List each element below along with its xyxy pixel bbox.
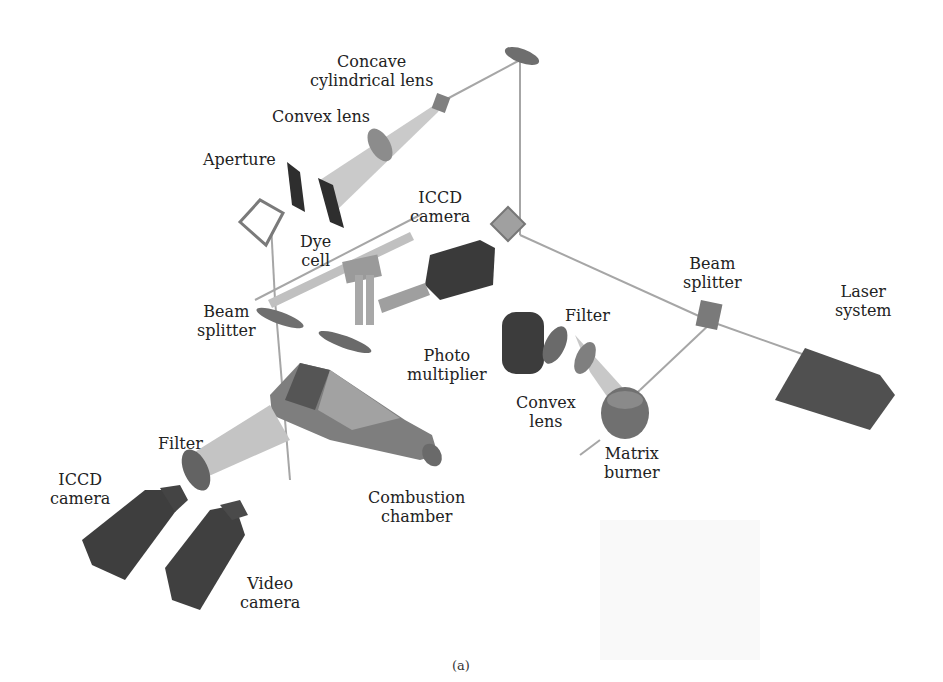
label-icdd-camera-left: ICCD camera xyxy=(50,470,110,508)
label-beam-splitter-right: Beam splitter xyxy=(683,254,742,292)
icdd-camera-top-icon xyxy=(378,240,495,313)
matrix-burner-icon xyxy=(601,387,649,439)
turning-mirror-icon xyxy=(240,200,283,245)
experimental-setup-diagram: Concave cylindrical lens Convex lens Ape… xyxy=(0,0,943,682)
label-convex-lens-top: Convex lens xyxy=(272,107,370,126)
photo-multiplier-icon xyxy=(502,312,544,374)
label-beam-splitter-left: Beam splitter xyxy=(197,302,256,340)
video-camera-icon xyxy=(165,500,248,610)
steering-mirror-icon xyxy=(503,43,542,68)
label-dye-cell: Dye cell xyxy=(300,232,331,270)
laser-system-icon xyxy=(775,348,895,430)
label-icdd-camera-top: ICCD camera xyxy=(410,188,470,226)
label-filter-right: Filter xyxy=(565,306,610,325)
figure-caption: (a) xyxy=(452,658,470,673)
label-filter-left: Filter xyxy=(158,434,203,453)
beam-splitter-right-icon xyxy=(696,300,723,330)
label-photo-multiplier: Photo multiplier xyxy=(407,346,487,384)
label-concave-cylindrical-lens: Concave cylindrical lens xyxy=(310,52,433,90)
label-convex-lens-right: Convex lens xyxy=(516,393,576,431)
label-matrix-burner: Matrix burner xyxy=(604,444,660,482)
beam-splitter-left-icon xyxy=(254,304,305,332)
label-laser-system: Laser system xyxy=(835,282,892,320)
aperture-plate-1-icon xyxy=(287,162,305,212)
label-combustion-chamber: Combustion chamber xyxy=(368,488,465,526)
label-aperture: Aperture xyxy=(203,150,276,169)
label-video-camera: Video camera xyxy=(240,574,300,612)
optical-layout-svg xyxy=(0,0,943,682)
